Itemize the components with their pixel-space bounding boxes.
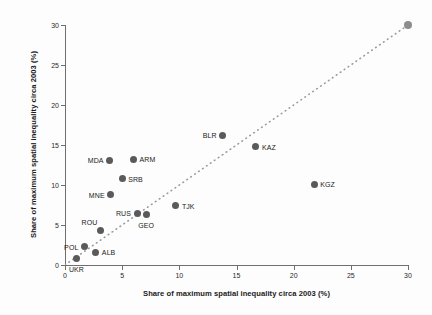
y-tick-mark bbox=[61, 65, 65, 66]
data-point-kaz[interactable] bbox=[252, 143, 259, 150]
data-point-blr[interactable] bbox=[219, 132, 226, 139]
scatter-chart-figure: Share of maximum spatial inequality circ… bbox=[0, 0, 432, 315]
y-tick-label: 25 bbox=[51, 62, 59, 69]
y-tick-label: 10 bbox=[51, 182, 59, 189]
data-point-label-kgz: KGZ bbox=[320, 181, 335, 188]
y-axis-title: Share of maximum spatial inequality circ… bbox=[29, 20, 38, 270]
y-tick-mark bbox=[61, 145, 65, 146]
x-tick-label: 10 bbox=[175, 272, 183, 279]
y-tick-label: 30 bbox=[51, 22, 59, 29]
data-point-label-arm: ARM bbox=[140, 156, 156, 163]
data-point-label-srb: SRB bbox=[128, 175, 143, 182]
data-point-label-mne: MNE bbox=[89, 191, 105, 198]
x-tick-mark bbox=[65, 266, 66, 270]
data-point-pol[interactable] bbox=[81, 243, 88, 250]
y-tick-label: 0 bbox=[55, 262, 59, 269]
x-tick-mark bbox=[122, 266, 123, 270]
data-point-rus[interactable] bbox=[134, 210, 141, 217]
y-tick-label: 20 bbox=[51, 102, 59, 109]
data-point-mne[interactable] bbox=[107, 191, 114, 198]
data-point-arm[interactable] bbox=[130, 156, 137, 163]
data-point-label-pol: POL bbox=[64, 243, 78, 250]
data-point-label-rou: ROU bbox=[82, 218, 98, 225]
data-point-label-tjk: TJK bbox=[182, 202, 195, 209]
data-point-endpoint[interactable] bbox=[404, 21, 412, 29]
x-tick-label: 20 bbox=[290, 272, 298, 279]
data-point-label-mda: MDA bbox=[88, 157, 104, 164]
y-tick-label: 5 bbox=[55, 222, 59, 229]
y-axis-line bbox=[65, 25, 66, 266]
data-point-geo[interactable] bbox=[143, 211, 150, 218]
x-tick-label: 30 bbox=[404, 272, 412, 279]
x-tick-label: 25 bbox=[347, 272, 355, 279]
x-axis-title: Share of maximum spatial inequality circ… bbox=[65, 289, 408, 298]
data-point-rou[interactable] bbox=[97, 227, 104, 234]
data-point-label-kaz: KAZ bbox=[262, 143, 276, 150]
data-point-label-geo: GEO bbox=[138, 222, 154, 229]
y-tick-mark bbox=[61, 105, 65, 106]
x-tick-mark bbox=[179, 266, 180, 270]
data-point-tjk[interactable] bbox=[172, 202, 179, 209]
y-tick-mark bbox=[61, 185, 65, 186]
data-point-srb[interactable] bbox=[119, 175, 126, 182]
x-tick-mark bbox=[294, 266, 295, 270]
data-point-label-blr: BLR bbox=[203, 132, 217, 139]
x-tick-label: 15 bbox=[233, 272, 241, 279]
x-tick-mark bbox=[351, 266, 352, 270]
data-point-label-alb: ALB bbox=[102, 249, 116, 256]
data-point-alb[interactable] bbox=[92, 249, 99, 256]
x-tick-label: 5 bbox=[120, 272, 124, 279]
y-tick-label: 15 bbox=[51, 142, 59, 149]
data-point-kgz[interactable] bbox=[311, 181, 318, 188]
y-tick-mark bbox=[61, 225, 65, 226]
data-point-ukr[interactable] bbox=[73, 255, 80, 262]
x-tick-mark bbox=[408, 266, 409, 270]
x-tick-label: 0 bbox=[63, 272, 67, 279]
y-tick-mark bbox=[61, 25, 65, 26]
data-point-label-ukr: UKR bbox=[69, 266, 84, 273]
data-point-label-rus: RUS bbox=[116, 210, 131, 217]
diagonal-reference-line bbox=[65, 25, 408, 265]
x-tick-mark bbox=[237, 266, 238, 270]
plot-area: 051015202530 051015202530 UKRPOLALBROUMD… bbox=[65, 25, 408, 265]
data-point-mda[interactable] bbox=[106, 157, 113, 164]
